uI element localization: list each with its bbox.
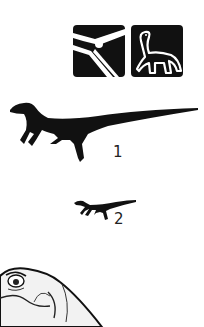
specimen-label-2: 2: [114, 212, 124, 227]
theropod-silhouette-1: [8, 100, 200, 168]
pterosaur-icon: [73, 25, 125, 77]
theropod-silhouette-2: [72, 199, 138, 221]
sauropod-head-illustration: [0, 262, 110, 327]
sauropodomorph-icon: [131, 25, 183, 77]
specimen-label-1: 1: [113, 145, 123, 160]
